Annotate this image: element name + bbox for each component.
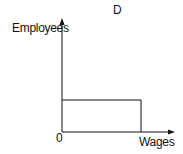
diagram-canvas	[0, 0, 183, 154]
employment-line	[62, 100, 141, 132]
y-axis-arrow-icon	[60, 18, 65, 25]
x-axis-arrow-icon	[168, 130, 175, 135]
